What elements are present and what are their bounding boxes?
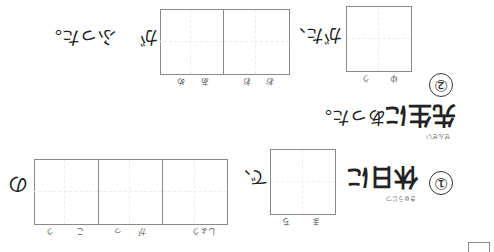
kanji-kyuujitsu-ni: 休日に: [346, 162, 418, 197]
answer-box-shougakkou[interactable]: [34, 159, 228, 225]
furigana-tsu: っ: [114, 227, 122, 238]
furigana-me: め: [177, 77, 185, 88]
furigana-a: あ: [201, 77, 209, 88]
furigana-yu: ゆ: [390, 74, 398, 85]
furigana-kyuujitsu: きゅうじつ: [386, 195, 416, 204]
text-de: で、: [233, 166, 268, 192]
furigana-o1: お: [266, 77, 274, 88]
kanji-sensei-ni: 先生に: [384, 100, 456, 135]
text-atta: あった。: [314, 106, 386, 132]
furigana-ma: ま: [312, 217, 320, 228]
text-gata: がた、: [288, 24, 342, 50]
answer-box-yuu[interactable]: [346, 6, 412, 72]
partial-box-edge: [468, 242, 490, 252]
furigana-ga: が: [138, 227, 146, 238]
furigana-o2: お: [243, 77, 251, 88]
answer-box-ooame[interactable]: [160, 9, 290, 75]
furigana-chi: ち: [282, 217, 290, 228]
furigana-u: う: [362, 74, 370, 85]
question-number-1: ①: [429, 171, 453, 195]
text-no: の: [8, 171, 28, 200]
furigana-shou: しょう: [192, 227, 216, 238]
question-number-2: ②: [429, 73, 453, 97]
text-ga: が: [140, 26, 158, 52]
answer-box-machi[interactable]: [270, 149, 336, 215]
furigana-sensei: せんせい: [426, 133, 450, 142]
furigana-u2: う: [46, 227, 54, 238]
text-futta: ふった。: [44, 26, 116, 52]
furigana-ko: こ: [76, 227, 84, 238]
